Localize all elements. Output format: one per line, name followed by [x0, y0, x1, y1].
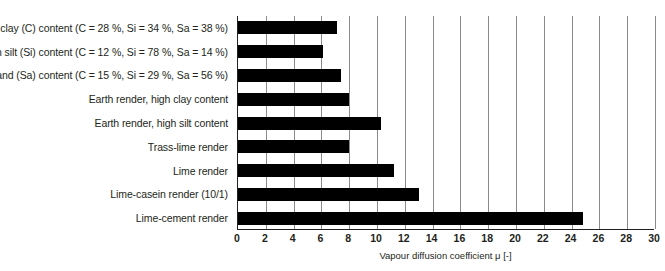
- gridline: [516, 16, 517, 229]
- category-label: Lime-cement render: [136, 212, 228, 224]
- x-tick-label: 26: [593, 232, 605, 244]
- x-tick-label: 10: [370, 232, 382, 244]
- gridline: [655, 16, 656, 229]
- x-tick-label: 4: [290, 232, 296, 244]
- bar: [238, 188, 419, 201]
- bar: [238, 164, 394, 177]
- bar: [238, 45, 323, 58]
- x-axis-tick-labels: 024681012141618202224262830: [237, 231, 654, 245]
- x-tick-label: 0: [234, 232, 240, 244]
- bar: [238, 212, 583, 225]
- x-tick-label: 24: [565, 232, 577, 244]
- x-tick-label: 14: [426, 232, 438, 244]
- x-tick-label: 8: [345, 232, 351, 244]
- vapour-diffusion-bar-chart: Earth, high clay (C) content (C = 28 %, …: [0, 0, 665, 271]
- bar: [238, 69, 341, 82]
- gridline: [488, 16, 489, 229]
- x-tick-label: 18: [481, 232, 493, 244]
- plot-area: [237, 16, 654, 230]
- category-label: Lime-casein render (10/1): [110, 188, 228, 200]
- x-tick-label: 22: [537, 232, 549, 244]
- category-label: Earth, high clay (C) content (C = 28 %, …: [0, 22, 228, 34]
- x-tick-label: 16: [454, 232, 466, 244]
- x-tick-label: 12: [398, 232, 410, 244]
- category-label: Earth render, high clay content: [89, 93, 228, 105]
- category-axis-labels: Earth, high clay (C) content (C = 28 %, …: [0, 16, 232, 230]
- x-tick-label: 28: [620, 232, 632, 244]
- category-label: arth, high sand (Sa) content (C = 15 %, …: [0, 69, 228, 81]
- bar: [238, 21, 337, 34]
- gridline: [460, 16, 461, 229]
- x-tick-label: 20: [509, 232, 521, 244]
- category-label: Trass-lime render: [148, 141, 228, 153]
- bar: [238, 140, 349, 153]
- bar: [238, 93, 349, 106]
- gridline: [544, 16, 545, 229]
- gridline: [433, 16, 434, 229]
- x-tick-label: 6: [317, 232, 323, 244]
- x-axis-title: Vapour diffusion coefficient μ [-]: [237, 250, 654, 262]
- x-tick-label: 2: [262, 232, 268, 244]
- category-label: Lime render: [173, 165, 228, 177]
- x-tick-label: 30: [648, 232, 660, 244]
- category-label: Earth, high silt (Si) content (C = 12 %,…: [0, 46, 228, 58]
- category-label: Earth render, high silt content: [95, 117, 228, 129]
- gridline: [572, 16, 573, 229]
- bar: [238, 117, 381, 130]
- gridline: [627, 16, 628, 229]
- gridline: [599, 16, 600, 229]
